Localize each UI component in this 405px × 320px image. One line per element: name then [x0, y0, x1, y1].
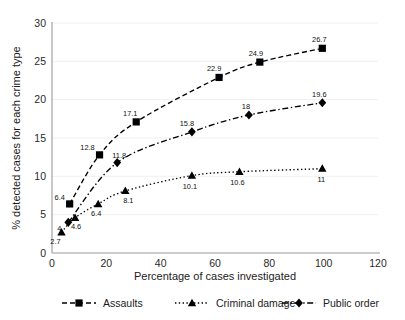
x-tick-label: 80	[263, 257, 275, 269]
data-point-label: 18	[242, 102, 250, 111]
data-point-label: 24.9	[249, 49, 263, 58]
chart-legend: AssaultsCriminal damagePublic order	[62, 297, 380, 309]
legend-marker-diamond-icon	[295, 298, 303, 307]
data-point-marker	[133, 118, 140, 125]
y-tick-label: 0	[40, 247, 46, 259]
y-tick-label: 5	[40, 208, 46, 220]
data-point-marker	[318, 164, 326, 172]
x-tick-label: 0	[49, 257, 55, 269]
series-public-order	[64, 98, 326, 227]
data-point-label: 8.1	[123, 196, 133, 205]
series-criminal-damage	[57, 164, 326, 235]
gridlines	[52, 23, 378, 215]
data-point-marker	[245, 110, 253, 119]
legend-item-assaults[interactable]: Assaults	[62, 297, 143, 309]
data-point-label: 10.1	[183, 182, 197, 191]
data-point-marker	[188, 127, 196, 136]
series-line	[68, 103, 322, 223]
y-axis-tick-labels: 051015202530	[34, 17, 46, 259]
axes	[52, 22, 380, 253]
data-point-label: 15.8	[180, 119, 194, 128]
data-point-label: 11	[317, 175, 325, 184]
legend-label: Assaults	[103, 297, 143, 309]
data-series-group	[57, 45, 326, 236]
legend-item-public-order[interactable]: Public order	[282, 297, 380, 309]
y-tick-label: 15	[34, 132, 46, 144]
data-point-label: 6.4	[91, 209, 101, 218]
x-tick-label: 100	[315, 257, 333, 269]
data-point-marker	[235, 167, 243, 175]
data-point-label: 26.7	[312, 35, 326, 44]
y-tick-label: 20	[34, 93, 46, 105]
y-tick-label: 30	[34, 17, 46, 29]
x-tick-label: 60	[209, 257, 221, 269]
x-tick-label: 120	[369, 257, 387, 269]
data-point-label: 12.8	[80, 143, 94, 152]
legend-marker-square-icon	[75, 299, 82, 306]
line-chart: 051015202530 020406080100120 % detected …	[0, 0, 405, 320]
data-point-label: 11.8	[112, 151, 126, 160]
data-point-marker	[66, 200, 73, 207]
data-point-label: 22.9	[207, 64, 221, 73]
y-tick-label: 10	[34, 170, 46, 182]
data-point-label: 19.6	[312, 90, 326, 99]
data-point-marker	[96, 151, 103, 158]
chart-container: 051015202530 020406080100120 % detected …	[0, 0, 405, 320]
data-point-marker	[215, 74, 222, 81]
legend-label: Public order	[323, 297, 380, 309]
data-point-marker	[94, 200, 102, 208]
x-tick-label: 20	[100, 257, 112, 269]
data-point-label: 17.1	[123, 109, 137, 118]
data-point-marker	[256, 59, 263, 66]
x-axis-title: Percentage of cases investigated	[134, 270, 296, 282]
data-point-label: 10.6	[230, 178, 244, 187]
data-point-label: 4.6	[71, 222, 81, 231]
y-tick-label: 25	[34, 55, 46, 67]
y-axis-title: % detected cases for each crime type	[10, 46, 22, 229]
x-axis-tick-labels: 020406080100120	[49, 257, 387, 269]
data-point-marker	[319, 45, 326, 52]
legend-item-criminal-damage[interactable]: Criminal damage	[175, 297, 296, 309]
data-point-label: 6.4	[55, 193, 65, 202]
data-point-label: 2.7	[50, 237, 60, 246]
data-point-label: 4	[57, 224, 61, 233]
x-tick-label: 40	[155, 257, 167, 269]
